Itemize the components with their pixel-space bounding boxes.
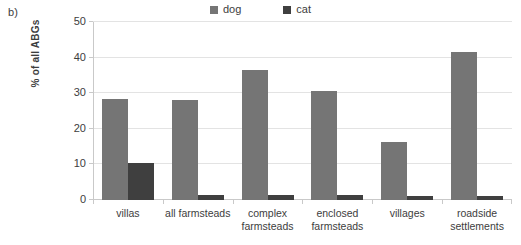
category-label: villas [93, 200, 163, 244]
figure-panel: b) dog cat % of all ABGs 01020304050 vil… [0, 0, 521, 245]
category-tick [163, 200, 164, 204]
category-label-text: complex farmsteads [242, 207, 294, 232]
category-tick [93, 200, 94, 204]
category-label-text: all farmsteads [165, 207, 230, 219]
y-tick-label-10: 10 [74, 157, 86, 169]
category-label: all farmsteads [163, 200, 233, 244]
y-tick-label-20: 20 [74, 122, 86, 134]
category-tick [372, 200, 373, 204]
legend-swatch-dog [210, 6, 218, 14]
category-axis: villasall farmsteadscomplex farmsteadsen… [93, 200, 512, 244]
bar-dog [311, 91, 337, 200]
y-tick-label-0: 0 [80, 193, 86, 205]
bar-group [442, 22, 512, 200]
bar-group [163, 22, 233, 200]
category-tick [302, 200, 303, 204]
bar-group [372, 22, 442, 200]
category-label: villages [372, 200, 442, 244]
category-tick [233, 200, 234, 204]
y-tick-label-30: 30 [74, 86, 86, 98]
plot-area: 01020304050 [93, 22, 512, 200]
legend-label-cat: cat [296, 4, 311, 15]
chart-legend: dog cat [0, 4, 521, 15]
bar-dog [242, 70, 268, 200]
panel-label: b) [8, 6, 18, 18]
category-tick-end [511, 200, 512, 204]
category-label: enclosed farmsteads [302, 200, 372, 244]
category-tick [442, 200, 443, 204]
bar-dog [381, 142, 407, 200]
legend-entry-cat: cat [283, 4, 311, 15]
bar-group [302, 22, 372, 200]
bar-dog [451, 52, 477, 200]
category-label-text: villages [390, 207, 425, 219]
category-label-text: roadside settlements [450, 207, 504, 232]
bar-group [93, 22, 163, 200]
bar-cat [128, 163, 154, 200]
category-label-text: enclosed farmsteads [311, 207, 363, 232]
category-label-text: villas [116, 207, 139, 219]
category-label: complex farmsteads [233, 200, 303, 244]
bar-dog [102, 99, 128, 200]
y-tick-label-50: 50 [74, 15, 86, 27]
category-label: roadside settlements [442, 200, 512, 244]
legend-entry-dog: dog [210, 4, 241, 15]
y-tick-label-40: 40 [74, 51, 86, 63]
legend-label-dog: dog [223, 4, 241, 15]
bar-dog [172, 100, 198, 200]
bar-group [233, 22, 303, 200]
bar-groups [93, 22, 512, 200]
legend-swatch-cat [283, 6, 291, 14]
y-axis-title: % of all ABGs [30, 0, 41, 129]
